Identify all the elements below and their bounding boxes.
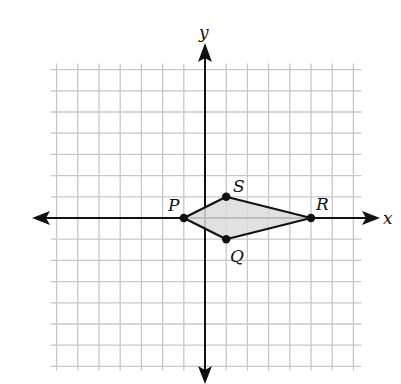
vertex-label-r: R xyxy=(315,194,329,214)
vertex-point-r xyxy=(307,214,315,222)
quadrilateral-pqrs xyxy=(184,197,311,239)
vertex-point-q xyxy=(222,235,230,243)
vertex-point-p xyxy=(180,214,188,222)
vertex-label-s: S xyxy=(233,176,245,196)
vertex-label-p: P xyxy=(167,195,180,215)
vertex-point-s xyxy=(222,193,230,201)
coordinate-plane: x y P S R Q xyxy=(0,0,401,384)
x-axis-label: x xyxy=(383,208,393,228)
y-axis-label: y xyxy=(198,22,209,42)
vertex-label-q: Q xyxy=(230,246,244,266)
